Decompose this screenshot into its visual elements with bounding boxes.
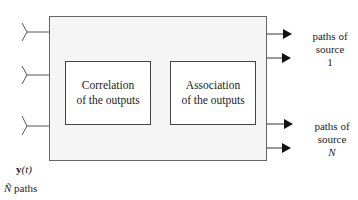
arrowhead-icon (282, 143, 291, 153)
arrowhead-icon (284, 119, 293, 129)
output-label-line: 1 (302, 56, 358, 69)
output-label-line: source (304, 133, 358, 146)
input-paths-label: Ñ paths (4, 182, 37, 195)
paths-text: paths (14, 182, 37, 194)
association-block: Association of the outputs (170, 61, 256, 125)
arrowhead-icon (282, 53, 291, 63)
antenna-icon (22, 66, 49, 84)
output-label-line: N (304, 146, 358, 159)
correlation-line2: of the outputs (76, 94, 139, 106)
output-label-source-n: paths of source N (304, 120, 358, 159)
output-label-line: paths of (302, 30, 358, 43)
arrowhead-icon (283, 29, 292, 39)
association-line2: of the outputs (181, 94, 244, 106)
output-label-line: source (302, 43, 358, 56)
output-label-line: paths of (304, 120, 358, 133)
antenna-icon (22, 116, 49, 135)
antenna-icon (22, 23, 49, 41)
paths-symbol: Ñ (4, 182, 11, 194)
input-signal-label: y(t) (16, 163, 32, 176)
signal-arg: (t) (22, 163, 32, 175)
association-line1: Association (186, 79, 240, 91)
correlation-block: Correlation of the outputs (65, 61, 151, 125)
output-label-source-1: paths of source 1 (302, 30, 358, 69)
correlation-line1: Correlation (82, 79, 134, 91)
